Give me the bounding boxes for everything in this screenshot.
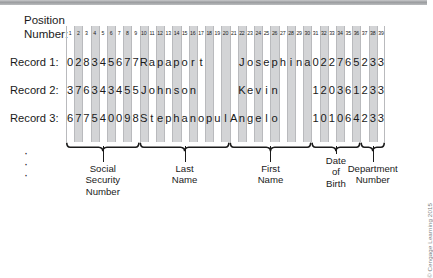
record-1-char-30: a xyxy=(303,54,311,70)
copyright-credit: © Cengage Learning 2015 xyxy=(426,203,433,278)
position-number-32: 32 xyxy=(320,27,328,38)
record-1-char-1: 0 xyxy=(66,54,74,70)
callout-tick-department-number xyxy=(373,146,374,162)
position-number-24: 24 xyxy=(254,27,262,38)
record-2-char-31: 1 xyxy=(311,82,319,98)
record-3-char-4: 5 xyxy=(91,110,99,126)
record-3-char-16: n xyxy=(189,110,197,126)
record-3-char-22: n xyxy=(238,110,246,126)
record-2-char-4: 3 xyxy=(91,82,99,98)
position-number-6: 6 xyxy=(107,27,115,38)
position-number-29: 29 xyxy=(295,27,303,38)
record-1-char-35: 6 xyxy=(344,54,352,70)
record-3-char-24: e xyxy=(254,110,262,126)
position-number-18: 18 xyxy=(205,27,213,38)
record-1-char-37: 2 xyxy=(360,54,368,70)
record-3-char-32: 0 xyxy=(320,110,328,126)
record-2-char-5: 4 xyxy=(99,82,107,98)
position-number-15: 15 xyxy=(181,27,189,38)
callout-label-department-number: Department Number xyxy=(329,163,417,186)
record-3-char-7: 0 xyxy=(115,110,123,126)
record-3-char-3: 7 xyxy=(82,110,90,126)
record-2-char-14: s xyxy=(172,82,180,98)
position-number-31: 31 xyxy=(311,27,319,38)
record-2-char-9: 5 xyxy=(131,82,139,98)
position-number-2: 2 xyxy=(74,27,82,38)
callout-tick-first-name xyxy=(270,146,271,162)
record-1-char-33: 2 xyxy=(328,54,336,70)
record-1-char-16: r xyxy=(189,54,197,70)
record-3-char-1: 6 xyxy=(66,110,74,126)
column-divider xyxy=(295,26,296,142)
record-3-char-2: 7 xyxy=(74,110,82,126)
position-number-30: 30 xyxy=(303,27,311,38)
record-1-char-28: i xyxy=(287,54,295,70)
position-number-39: 39 xyxy=(377,27,385,38)
position-number-17: 17 xyxy=(197,27,205,38)
record-2-char-26: n xyxy=(270,82,278,98)
position-number-35: 35 xyxy=(344,27,352,38)
record-2-char-33: 0 xyxy=(328,82,336,98)
position-number-13: 13 xyxy=(164,27,172,38)
record-1-char-14: p xyxy=(172,54,180,70)
record-1-char-23: o xyxy=(246,54,254,70)
record-1-char-34: 7 xyxy=(336,54,344,70)
record-1-char-22: J xyxy=(238,54,246,70)
column-divider xyxy=(287,26,288,142)
position-number-9: 9 xyxy=(131,27,139,38)
field-group-callouts: Social Security NumberLast NameFirst Nam… xyxy=(0,146,427,206)
record-3-char-25: l xyxy=(262,110,270,126)
record-2-char-13: n xyxy=(164,82,172,98)
grid-column-27 xyxy=(279,26,287,142)
position-number-21: 21 xyxy=(230,27,238,38)
record-3-char-13: p xyxy=(164,110,172,126)
record-2-char-23: e xyxy=(246,82,254,98)
record-2-char-36: 1 xyxy=(352,82,360,98)
record-1-char-7: 6 xyxy=(115,54,123,70)
record-1-char-8: 7 xyxy=(123,54,131,70)
position-number-19: 19 xyxy=(213,27,221,38)
record-2-char-6: 3 xyxy=(107,82,115,98)
position-number-11: 11 xyxy=(148,27,156,38)
record-3-char-38: 3 xyxy=(369,110,377,126)
record-1-char-6: 5 xyxy=(107,54,115,70)
position-number-4: 4 xyxy=(91,27,99,38)
record-3-char-37: 2 xyxy=(360,110,368,126)
record-2-char-34: 3 xyxy=(336,82,344,98)
record-3-char-15: a xyxy=(181,110,189,126)
record-3-char-8: 9 xyxy=(123,110,131,126)
position-number-33: 33 xyxy=(328,27,336,38)
position-number-10: 10 xyxy=(140,27,148,38)
position-number-22: 22 xyxy=(238,27,246,38)
record-1-char-32: 2 xyxy=(320,54,328,70)
record-2-char-25: i xyxy=(262,82,270,98)
record-2-char-38: 3 xyxy=(369,82,377,98)
record-2-char-22: K xyxy=(238,82,246,98)
record-3-char-19: u xyxy=(213,110,221,126)
position-number-3: 3 xyxy=(82,27,90,38)
grid-column-29 xyxy=(295,26,303,142)
record-1-char-10: R xyxy=(140,54,148,70)
record-1-char-13: a xyxy=(164,54,172,70)
record-3-char-12: e xyxy=(156,110,164,126)
position-number-8: 8 xyxy=(123,27,131,38)
column-divider xyxy=(303,26,304,142)
record-1-char-5: 4 xyxy=(99,54,107,70)
record-2-char-12: h xyxy=(156,82,164,98)
record-1-char-2: 2 xyxy=(74,54,82,70)
record-1-char-25: e xyxy=(262,54,270,70)
record-3-char-6: 0 xyxy=(107,110,115,126)
record-2-char-8: 5 xyxy=(123,82,131,98)
record-1-char-11: a xyxy=(148,54,156,70)
record-1-char-29: n xyxy=(295,54,303,70)
record-2-char-16: n xyxy=(189,82,197,98)
record-3-char-18: p xyxy=(205,110,213,126)
position-number-36: 36 xyxy=(352,27,360,38)
record-1-char-4: 3 xyxy=(91,54,99,70)
record-1-char-24: s xyxy=(254,54,262,70)
record-1-char-36: 5 xyxy=(352,54,360,70)
record-1-char-12: p xyxy=(156,54,164,70)
position-number-28: 28 xyxy=(287,27,295,38)
record-3-char-33: 1 xyxy=(328,110,336,126)
record-3-char-17: o xyxy=(197,110,205,126)
